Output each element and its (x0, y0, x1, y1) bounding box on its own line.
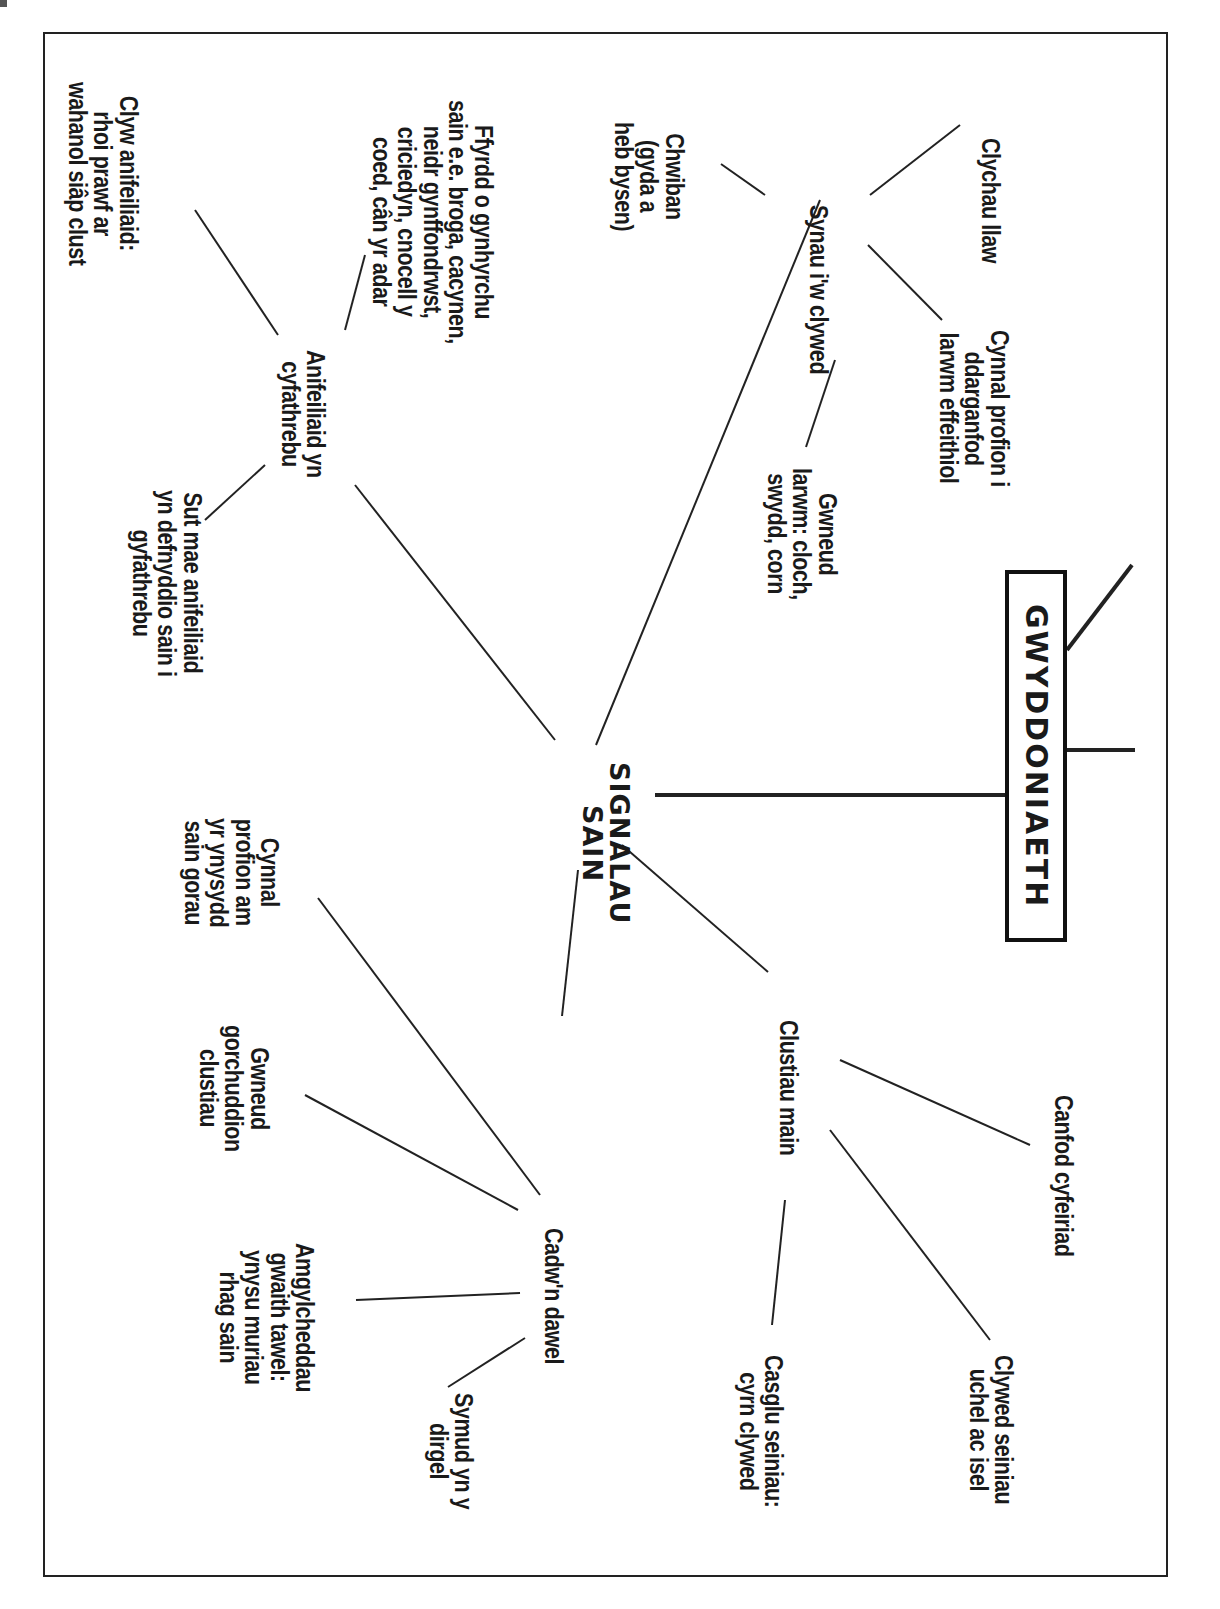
leaf-clychau-llaw: Clychau llaw (977, 138, 1003, 263)
branch-anifeiliaid: Anifeiliaid yn cyfathrebu (277, 350, 328, 478)
leaf-gwneud-gorchuddion: Gwneud gorchuddion clustiau (195, 1025, 272, 1152)
leaf-clywed-seiniau: Clywed seiniau uchel ac isel (965, 1355, 1016, 1504)
leaf-clyw-anifeiliaid: Clyw anifeiliaid: rhoi prawf ar wahanol … (64, 82, 141, 265)
leaf-canfod-cyfeiriad: Canfod cyfeiriad (1050, 1095, 1076, 1257)
leaf-symud-yn-y-dirgel: Symud yn y dirgel (425, 1393, 476, 1509)
leaf-gwneud-larwm: Gwneud larwm: cloch, swydd, corn (763, 468, 840, 600)
branch-synau: Synau i'w clywed (805, 205, 831, 374)
leaf-cynnal-profion-ynysydd: Cynnal profion am yr ynysydd sain gorau (180, 818, 282, 927)
title-box: GWYDDONIAETH (1005, 570, 1067, 942)
branch-clustiau-main: Clustiau main (775, 1020, 801, 1155)
center-node: SIGNALAU SAIN (578, 762, 633, 924)
leaf-sut-mae-anifeiliaid: Sut mae anifeiliaid yn defnyddio sain i … (128, 490, 205, 677)
branch-cadwn-dawel: Cadw'n dawel (540, 1228, 566, 1364)
leaf-chwiban: Chwiban (gyda a heb bysen) (610, 122, 687, 231)
diagram-title: GWYDDONIAETH (1019, 604, 1054, 908)
leaf-casglu-seiniau: Casglu seiniau: cyrn clywed (735, 1355, 786, 1507)
leaf-cynnal-profion-larwm: Cynnal profion i ddarganfod larwm effeit… (935, 330, 1012, 487)
leaf-amgylcheddau-gwaith: Amgylcheddau gwaith tawel: ynysu muriau … (215, 1243, 317, 1392)
leaf-ffyrdd-cynhyrchu-sain: Ffyrdd o gynhyrchu sain e.e. broga, cacy… (368, 100, 496, 344)
